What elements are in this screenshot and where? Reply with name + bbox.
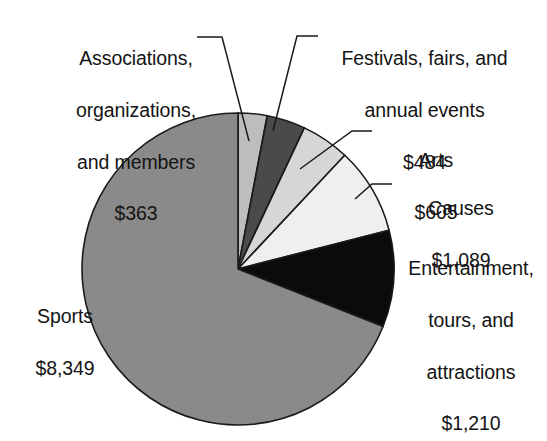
slice-value-entertainment: $1,210 [398, 411, 544, 437]
slice-value-associations: $363 [36, 201, 236, 227]
slice-label-festivals-line2: annual events [322, 98, 527, 124]
slice-label-festivals-line1: Festivals, fairs, and [322, 46, 527, 72]
slice-label-associations-line1: Associations, [36, 46, 236, 72]
slice-label-sports: Sports $8,349 [6, 278, 124, 408]
pie-chart: Associations, organizations, and members… [0, 0, 547, 441]
slice-label-entertainment-line2: tours, and [398, 308, 544, 334]
slice-value-sports: $8,349 [6, 356, 124, 382]
leader-line-festivals [273, 36, 318, 131]
slice-label-entertainment: Entertainment, tours, and attractions $1… [398, 230, 544, 441]
slice-label-sports-line1: Sports [6, 304, 124, 330]
slice-label-associations-line3: and members [36, 150, 236, 176]
slice-label-associations: Associations, organizations, and members… [36, 20, 236, 253]
slice-label-causes-line1: Causes [396, 196, 526, 222]
slice-label-entertainment-line3: attractions [398, 360, 544, 386]
slice-label-entertainment-line1: Entertainment, [398, 256, 544, 282]
slice-label-associations-line2: organizations, [36, 98, 236, 124]
